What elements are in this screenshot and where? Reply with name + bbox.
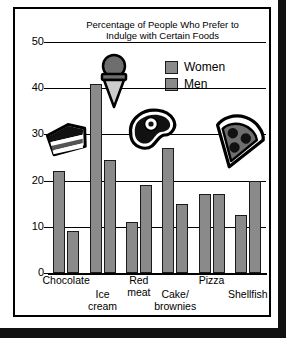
y-axis-label-20: 20 [22, 175, 44, 186]
chart-title-line-1: Percentage of People Who Prefer to [60, 19, 265, 30]
bar-women-ice-cream [90, 84, 102, 273]
x-axis-label-shellfish: Shellfish [215, 289, 281, 301]
chocolate-cake-icon [40, 117, 92, 161]
bar-women-shellfish [235, 215, 247, 273]
bar-men-ice-cream [104, 160, 116, 273]
y-axis-label-10: 10 [22, 221, 44, 232]
chart-title: Percentage of People Who Prefer to Indul… [60, 19, 265, 41]
bar-men-pizza [213, 194, 225, 273]
bar-women-cake-brownies [162, 148, 174, 273]
page-edge-shadow-bottom [0, 328, 286, 338]
x-axis-label-chocolate: Chocolate [33, 275, 99, 287]
y-axis-label-50: 50 [22, 36, 44, 47]
chart-screenshot: Percentage of People Who Prefer to Indul… [0, 0, 286, 338]
x-axis-label-pizza: Pizza [179, 275, 245, 287]
bar-women-red-meat [126, 222, 138, 273]
ice-cream-cone-icon [97, 52, 131, 110]
x-axis-label-cake-brownies: Cake/ brownies [142, 289, 208, 312]
bar-men-shellfish [249, 181, 261, 273]
chart-title-line-2: Indulge with Certain Foods [60, 30, 265, 41]
pizza-slice-icon [207, 112, 267, 174]
bar-men-cake-brownies [176, 204, 188, 273]
page-edge-gap [0, 325, 272, 328]
bar-women-pizza [199, 194, 211, 273]
page-edge-shadow-right [278, 0, 286, 338]
bar-men-chocolate [67, 231, 79, 273]
x-axis-labels: ChocolateIce creamRed meatCake/ brownies… [13, 275, 271, 317]
y-axis-label-40: 40 [22, 82, 44, 93]
bar-men-red-meat [140, 185, 152, 273]
bar-women-chocolate [53, 171, 65, 273]
steak-icon [125, 105, 181, 155]
